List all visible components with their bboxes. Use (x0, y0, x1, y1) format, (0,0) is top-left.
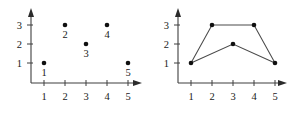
x-tick-label: 2 (209, 91, 214, 102)
y-tick-label: 3 (17, 20, 22, 31)
data-point (42, 61, 47, 66)
data-point (126, 61, 131, 66)
x-tick-label: 5 (272, 91, 277, 102)
y-tick-label: 3 (164, 20, 169, 31)
data-point (210, 23, 215, 28)
right-y-tick-labels: 1 2 3 (164, 20, 169, 69)
x-tick-label: 2 (62, 91, 67, 102)
panel-right-polygon: 1 2 3 1 2 3 4 5 (148, 0, 295, 114)
point-label: 2 (62, 29, 67, 40)
right-axes (175, 8, 287, 86)
panel-left-scatter: 1 2 3 1 2 3 4 5 1 2 3 4 (0, 0, 148, 114)
y-tick-label: 1 (164, 58, 169, 69)
data-point (63, 23, 68, 28)
right-x-tick-labels: 1 2 3 4 5 (188, 91, 277, 102)
right-y-ticks (174, 25, 180, 63)
x-tick-label: 4 (104, 91, 110, 102)
x-tick-label: 1 (188, 91, 193, 102)
x-tick-label: 3 (230, 91, 235, 102)
x-axis-arrow-icon (133, 80, 142, 86)
x-axis-arrow-icon (278, 80, 287, 86)
data-point (105, 23, 110, 28)
data-point (84, 42, 89, 47)
right-polygon-svg: 1 2 3 1 2 3 4 5 (148, 0, 295, 114)
left-x-tick-labels: 1 2 3 4 5 (41, 91, 130, 102)
left-y-tick-labels: 1 2 3 (17, 20, 22, 69)
data-point (252, 23, 257, 28)
y-tick-label: 2 (164, 39, 169, 50)
data-point (189, 61, 194, 66)
y-axis-arrow-icon (175, 8, 181, 17)
point-label: 5 (125, 67, 130, 78)
y-tick-label: 2 (17, 39, 22, 50)
data-point (273, 61, 278, 66)
lower-path-polyline (191, 44, 275, 63)
x-tick-label: 5 (125, 91, 130, 102)
left-scatter-svg: 1 2 3 1 2 3 4 5 1 2 3 4 (0, 0, 148, 114)
data-point (231, 42, 236, 47)
y-tick-label: 1 (17, 58, 22, 69)
figure-root: 1 2 3 1 2 3 4 5 1 2 3 4 (0, 0, 295, 114)
left-point-labels: 1 2 3 4 5 (41, 29, 130, 78)
point-label: 4 (104, 29, 110, 40)
y-axis-arrow-icon (28, 8, 34, 17)
x-tick-label: 1 (41, 91, 46, 102)
point-label: 3 (83, 48, 88, 59)
x-tick-label: 3 (83, 91, 88, 102)
left-y-ticks (27, 25, 33, 63)
point-label: 1 (41, 67, 46, 78)
x-tick-label: 4 (251, 91, 257, 102)
